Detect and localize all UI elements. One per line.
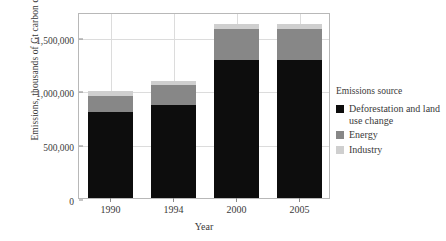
y-axis-tick-label: 1,000,000 (36, 89, 79, 99)
bar-1994[interactable] (151, 81, 195, 198)
x-axis-tick-mark (110, 198, 111, 202)
y-axis-tick-mark (79, 146, 83, 147)
y-axis-tick-label: 0 (69, 197, 79, 207)
bar-segment (151, 85, 195, 104)
y-axis-tick: 500,000 (43, 137, 79, 155)
y-axis-tick: 1,000,000 (36, 83, 79, 101)
legend-item[interactable]: Deforestation and land use change (336, 103, 446, 126)
legend-item[interactable]: Energy (336, 129, 446, 141)
bar-segment (88, 112, 132, 198)
y-axis-tick: 0 (69, 191, 79, 209)
x-axis-tick: 1994 (164, 198, 184, 215)
legend: Emissions source Deforestation and land … (336, 86, 446, 158)
bar-1990[interactable] (88, 91, 132, 199)
emissions-stacked-bar-chart: Emissions, thousands of Gt carbon dioxid… (0, 0, 446, 241)
x-axis-tick: 2005 (290, 198, 310, 215)
legend-item[interactable]: Industry (336, 144, 446, 156)
bar-2000[interactable] (214, 24, 258, 198)
y-axis-tick-label: 1,500,000 (36, 36, 79, 46)
bar-segment (214, 29, 258, 60)
y-axis-tick-mark (79, 92, 83, 93)
x-axis-tick: 1990 (101, 198, 121, 215)
legend-item-label: Energy (349, 129, 378, 141)
x-axis-tick-label: 1990 (101, 204, 121, 215)
legend-item-list: Deforestation and land use changeEnergyI… (336, 103, 446, 155)
x-axis-tick-label: 1994 (164, 204, 184, 215)
legend-swatch (336, 105, 344, 113)
legend-swatch (336, 131, 344, 139)
y-axis-tick-label: 500,000 (43, 143, 79, 153)
x-axis-tick-mark (299, 198, 300, 202)
y-axis-tick: 1,500,000 (36, 30, 79, 48)
bar-segment (88, 96, 132, 112)
bar-2005[interactable] (277, 24, 321, 198)
bar-segment (277, 29, 321, 60)
bar-segment (277, 60, 321, 198)
bar-segment (151, 105, 195, 198)
plot-panel: 0500,0001,000,0001,500,00019901994200020… (78, 13, 330, 199)
legend-title: Emissions source (336, 86, 446, 96)
legend-swatch (336, 146, 344, 154)
y-axis-tick-mark (79, 200, 83, 201)
legend-item-label: Deforestation and land use change (349, 103, 446, 126)
x-axis-tick-mark (236, 198, 237, 202)
x-axis-tick-mark (173, 198, 174, 202)
x-axis-tick-label: 2000 (227, 204, 247, 215)
x-axis-title: Year (78, 221, 330, 232)
x-axis-tick: 2000 (227, 198, 247, 215)
bar-segment (214, 60, 258, 198)
x-axis-tick-label: 2005 (290, 204, 310, 215)
legend-item-label: Industry (349, 144, 382, 156)
y-axis-title: Emissions, thousands of Gt carbon dioxid… (30, 0, 40, 162)
y-axis-tick-mark (79, 38, 83, 39)
